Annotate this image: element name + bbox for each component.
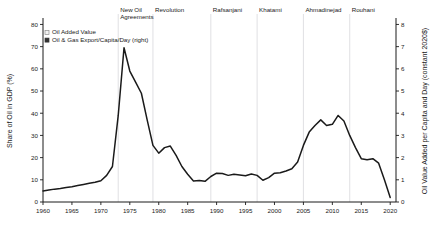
era-labels: New OilAgreementsRevolutionRafsanjaniKha… <box>120 6 375 20</box>
era-label: Khatami <box>259 6 282 13</box>
y-axis-right-tick-label: 2 <box>401 154 405 161</box>
y-axis-right-tick-label: 5 <box>401 87 405 94</box>
x-axis: 1960196519701975198019851990199520002005… <box>36 202 398 214</box>
y-axis-left-tick-label: 30 <box>31 132 38 139</box>
x-axis-tick-label: 2000 <box>268 207 282 214</box>
series-line-oil-added-value <box>43 48 390 198</box>
y-axis-left-tick-label: 10 <box>31 176 38 183</box>
y-axis-left-tick-label: 60 <box>31 65 38 72</box>
x-axis-tick-label: 1975 <box>123 207 137 214</box>
x-axis-tick-label: 1990 <box>210 207 224 214</box>
x-axis-tick-label: 1960 <box>36 207 50 214</box>
x-axis-tick-label: 1980 <box>152 207 166 214</box>
x-axis-tick-label: 2005 <box>297 207 311 214</box>
y-axis-right-tick-label: 7 <box>401 43 405 50</box>
y-axis-right-tick-label: 4 <box>401 110 405 117</box>
legend-marker-2 <box>45 38 49 42</box>
y-axis-right-tick-label: 3 <box>401 132 405 139</box>
y-axis-left-tick-label: 20 <box>31 154 38 161</box>
x-axis-tick-label: 1965 <box>65 207 79 214</box>
legend-label-1: Oil Added Value <box>52 28 96 35</box>
x-axis-tick-label: 2010 <box>325 207 339 214</box>
y-axis-left-tick-label: 40 <box>31 110 38 117</box>
era-label: New Oil <box>120 6 142 13</box>
x-axis-tick-label: 2015 <box>354 207 368 214</box>
y-axis-right-tick-label: 8 <box>401 21 405 28</box>
x-axis-tick-label: 1985 <box>181 207 195 214</box>
era-label: Rouhani <box>352 6 375 13</box>
legend-marker-1 <box>45 31 49 35</box>
y-axis-right-title: Oil Value Added per Capita and Day (cons… <box>421 28 429 194</box>
y-axis-left-tick-label: 0 <box>35 198 39 205</box>
y-axis-left-title: Share of Oil in GDP (%) <box>6 74 14 148</box>
era-label: Revolution <box>155 6 185 13</box>
chart-legend: Oil Added ValueOil & Gas Export/Capita/D… <box>45 28 148 43</box>
legend-label-2: Oil & Gas Export/Capita/Day (right) <box>52 36 148 43</box>
era-label: Agreements <box>120 13 153 20</box>
y-axis-left: 01020304050607080 <box>31 18 43 205</box>
x-axis-tick-label: 1970 <box>94 207 108 214</box>
y-axis-left-tick-label: 70 <box>31 43 38 50</box>
y-axis-left-tick-label: 80 <box>31 21 38 28</box>
y-axis-right-tick-label: 1 <box>401 176 405 183</box>
y-axis-right-tick-label: 0 <box>401 198 405 205</box>
chart-figure: New OilAgreementsRevolutionRafsanjaniKha… <box>0 0 437 230</box>
plot-series <box>43 48 390 198</box>
y-axis-left-tick-label: 50 <box>31 87 38 94</box>
x-axis-tick-label: 2020 <box>383 207 397 214</box>
oil-share-gdp-line-chart: New OilAgreementsRevolutionRafsanjaniKha… <box>0 0 437 230</box>
y-axis-right: 012345678 <box>396 18 405 205</box>
x-axis-tick-label: 1995 <box>239 207 253 214</box>
era-label: Ahmadinejad <box>305 6 342 13</box>
era-label: Rafsanjani <box>213 6 242 13</box>
y-axis-right-tick-label: 6 <box>401 65 405 72</box>
axis-titles: Share of Oil in GDP (%)Oil Value Added p… <box>6 28 429 194</box>
